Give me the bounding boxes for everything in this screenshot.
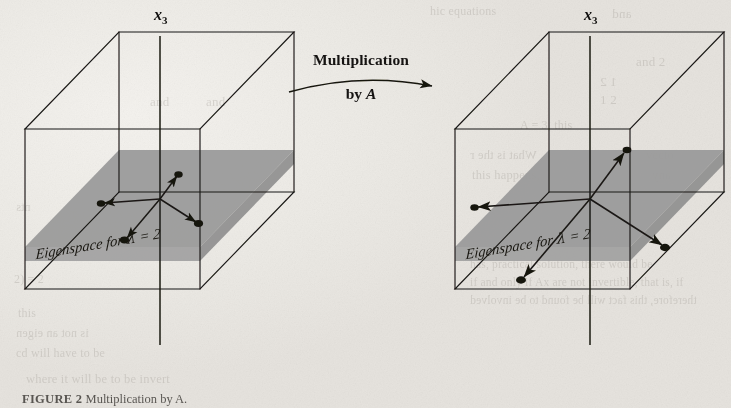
figure-caption-text: Multiplication by A. [86,392,188,406]
right-axis-label: x3 [584,6,598,26]
multiplication-label-by: by [346,85,366,102]
multiplication-label-line1: Multiplication [286,52,436,68]
multiplication-label-matrix: A [366,85,376,102]
multiplication-label-line2: by A [286,86,436,102]
multiplication-label: Multiplication by A [286,52,436,103]
left-axis-label: x3 [154,6,168,26]
figure-caption: FIGURE 2 Multiplication by A. [22,392,187,407]
figure-caption-label: FIGURE 2 [22,392,82,406]
left-cube-group [25,32,294,345]
right-cube-group [455,32,724,345]
